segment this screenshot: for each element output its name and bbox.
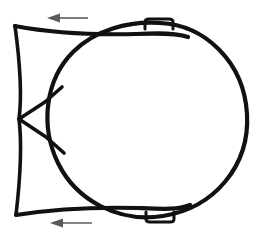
background [0, 0, 262, 242]
figure-canvas: Line drawing of a circular body with bra… [0, 0, 262, 242]
line-drawing: Line drawing of a circular body with bra… [0, 0, 262, 242]
